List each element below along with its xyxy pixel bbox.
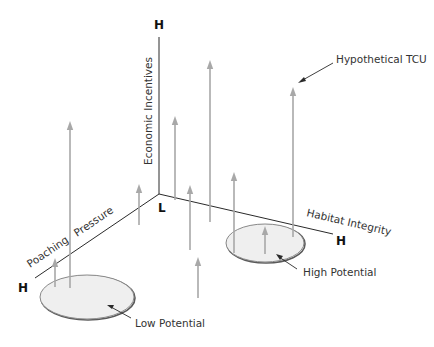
habitat-integrity-label: Habitat Integrity bbox=[306, 206, 393, 237]
pressure-label: Pressure bbox=[71, 204, 115, 239]
tcu-arrow-7 bbox=[195, 257, 201, 298]
vertical-axis-high-label: H bbox=[154, 18, 164, 32]
tcu-arrow-4 bbox=[172, 116, 178, 200]
arrow-up-icon bbox=[231, 172, 237, 181]
poaching-label: Poaching bbox=[24, 233, 70, 270]
arrow-up-icon bbox=[136, 184, 142, 193]
poaching-axis-high-label: H bbox=[18, 281, 28, 295]
hypothetical-tcu-label: Hypothetical TCU bbox=[336, 53, 427, 65]
tcu-arrow-3 bbox=[136, 184, 142, 225]
arrow-up-icon bbox=[67, 121, 73, 130]
high-potential-label: High Potential bbox=[303, 266, 376, 278]
arrow-up-icon bbox=[207, 60, 213, 69]
habitat-axis-high-label: H bbox=[336, 234, 346, 248]
origin-low-label: L bbox=[158, 201, 166, 215]
arrow-up-icon bbox=[172, 116, 178, 125]
low-potential-label: Low Potential bbox=[135, 317, 205, 329]
arrow-up-icon bbox=[195, 257, 201, 266]
economic-incentives-label: Economic Incentives bbox=[142, 57, 154, 165]
arrow-up-icon bbox=[187, 185, 193, 194]
tcu-annotation: Hypothetical TCU bbox=[298, 53, 427, 83]
tcu-potential-diagram: H Economic Incentives L Poaching Pressur… bbox=[0, 0, 434, 347]
tcu-arrow-6 bbox=[207, 60, 213, 222]
tcu-arrow-10 bbox=[290, 87, 296, 237]
arrow-up-icon bbox=[290, 87, 296, 96]
tcu-arrow-1 bbox=[67, 121, 73, 288]
tcu-arrow-5 bbox=[187, 185, 193, 250]
